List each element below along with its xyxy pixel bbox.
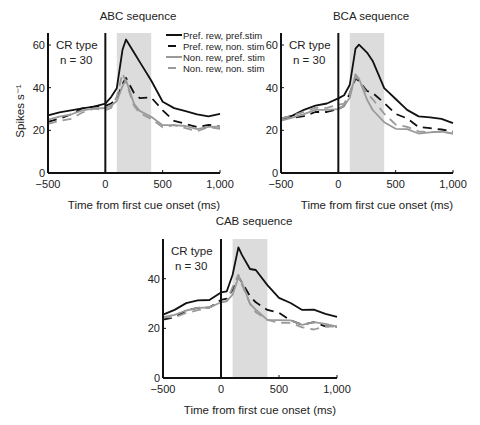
x-axis-label: Time from first cue onset (ms) bbox=[184, 404, 336, 416]
cr-type-label: CR type bbox=[56, 39, 98, 51]
cr-type-label: CR type bbox=[171, 245, 213, 257]
legend-label: Non. rew, pref. stim bbox=[183, 52, 265, 63]
figure: 0204060−50005001,000ABC sequenceTime fro… bbox=[0, 0, 480, 425]
y-tick-label: 40 bbox=[33, 82, 45, 94]
x-axis-label: Time from first cue onset (ms) bbox=[301, 199, 453, 211]
x-tick-label: 1,000 bbox=[323, 383, 351, 395]
y-tick-label: 20 bbox=[266, 124, 278, 136]
x-tick-label: 1,000 bbox=[439, 178, 467, 190]
y-tick-label: 40 bbox=[148, 273, 160, 285]
panel-abc: 0204060−50005001,000ABC sequenceTime fro… bbox=[14, 10, 265, 211]
y-tick-label: 40 bbox=[266, 82, 278, 94]
n-label: n = 30 bbox=[60, 54, 92, 66]
y-axis-label: Spikes s⁻¹ bbox=[14, 84, 26, 137]
y-tick-label: 60 bbox=[33, 39, 45, 51]
x-tick-label: 0 bbox=[335, 178, 341, 190]
x-tick-label: −500 bbox=[151, 383, 176, 395]
legend: Pref. rew, pref.stimPref. rew, non. stim… bbox=[166, 30, 265, 74]
n-label: n = 30 bbox=[175, 260, 207, 272]
y-tick-label: 20 bbox=[33, 124, 45, 136]
x-tick-label: 500 bbox=[153, 178, 171, 190]
panel-cab: 02040−50005001,000CAB sequenceTime from … bbox=[148, 215, 351, 416]
n-label: n = 30 bbox=[293, 54, 325, 66]
y-tick-label: 60 bbox=[266, 39, 278, 51]
legend-label: Non. rew, non. stim bbox=[183, 63, 264, 74]
panel-title: CAB sequence bbox=[216, 215, 293, 227]
x-tick-label: −500 bbox=[269, 178, 294, 190]
x-axis-label: Time from first cue onset (ms) bbox=[68, 199, 220, 211]
cr-type-label: CR type bbox=[289, 39, 331, 51]
x-tick-label: 0 bbox=[218, 383, 224, 395]
legend-label: Pref. rew, non. stim bbox=[183, 41, 264, 52]
x-tick-label: 0 bbox=[102, 178, 108, 190]
legend-label: Pref. rew, pref.stim bbox=[183, 30, 262, 41]
x-tick-label: −500 bbox=[36, 178, 61, 190]
x-tick-label: 1,000 bbox=[206, 178, 234, 190]
x-tick-label: 500 bbox=[270, 383, 288, 395]
panel-title: BCA sequence bbox=[333, 10, 409, 22]
shaded-window bbox=[233, 239, 268, 378]
y-tick-label: 20 bbox=[148, 322, 160, 334]
panel-title: ABC sequence bbox=[100, 10, 177, 22]
panel-bca: 0204060−50005001,000BCA sequenceTime fro… bbox=[266, 10, 467, 211]
x-tick-label: 500 bbox=[386, 178, 404, 190]
